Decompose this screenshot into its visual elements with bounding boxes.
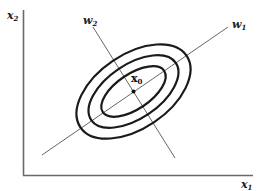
x0-label: x0 (131, 72, 143, 86)
x2-axis-label: x2 (6, 9, 19, 23)
center-point-x0 (132, 90, 136, 94)
w1-label: w1 (232, 18, 246, 32)
x1-axis-label: x1 (240, 178, 252, 191)
coordinate-axes (23, 10, 253, 176)
w2-label: w2 (83, 14, 97, 28)
quadratic-form-contour-diagram: x2 x1 w1 w2 x0 (0, 0, 264, 191)
